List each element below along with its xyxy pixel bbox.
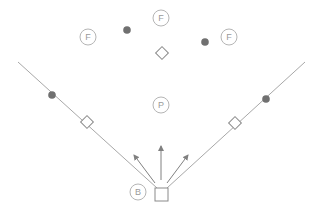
player-markers: FFFPB [80,10,237,200]
dot-right-outfield-icon [201,38,209,46]
batter-marker: B [130,184,146,200]
player-label: F [158,13,164,23]
player-label: B [135,187,141,197]
pitcher-marker: P [153,97,169,113]
player-label: F [85,32,91,42]
dot-right-line-icon [262,95,270,103]
first-base-icon [229,117,242,130]
baseball-field-diagram: FFFPB [0,0,325,214]
dot-left-outfield-icon [123,26,131,34]
second-base-icon [156,47,169,60]
right-fielder-marker: F [221,29,237,45]
center-fielder-marker: F [153,10,169,26]
hit-direction-arrows [134,146,188,183]
arrow-left-icon [134,155,155,183]
left-fielder-marker: F [80,29,96,45]
bases [81,47,242,130]
third-base-icon [81,116,94,129]
dot-left-line-icon [48,91,56,99]
home-plate-icon [155,188,168,201]
player-label: P [158,100,164,110]
player-label: F [226,32,232,42]
home-plate [155,188,168,201]
